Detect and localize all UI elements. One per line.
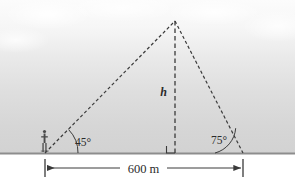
angle-label-left: 45° (75, 136, 92, 148)
baseline-dimension-label: 600 m (128, 162, 160, 176)
triangle-height-diagram: 45° 75° h 600 m (0, 0, 295, 183)
height-label: h (160, 85, 167, 99)
angle-label-right: 75° (211, 134, 228, 146)
